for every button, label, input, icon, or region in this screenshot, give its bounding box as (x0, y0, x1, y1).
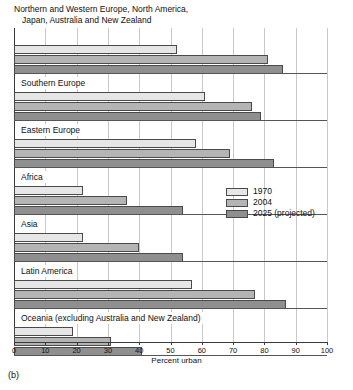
tick-label-40: 40 (135, 346, 143, 355)
bar-1970 (14, 45, 177, 54)
x-axis-ticks: 0102030405060708090100 (14, 342, 327, 356)
plot-area: Southern EuropeEastern EuropeAfricaAsiaL… (14, 28, 327, 342)
legend-label-1970: 1970 (253, 187, 272, 196)
bar-2004 (14, 243, 139, 252)
tick-label-70: 70 (229, 346, 237, 355)
bar-row (14, 45, 327, 54)
group-separator (14, 308, 327, 309)
group-label: Africa (14, 169, 327, 186)
group-label-text: Oceania (excluding Australia and New Zea… (19, 312, 204, 324)
bar-1970 (14, 327, 73, 336)
bar-row (14, 149, 327, 158)
bar-2004 (14, 149, 230, 158)
chart-title: Northern and Western Europe, North Ameri… (14, 4, 334, 26)
bar-1970 (14, 280, 192, 289)
figure-panel: Northern and Western Europe, North Ameri… (0, 0, 353, 390)
bar-2004 (14, 55, 268, 64)
group-separator (14, 120, 327, 121)
bar-1970 (14, 186, 83, 195)
bar-groups: Southern EuropeEastern EuropeAfricaAsiaL… (14, 28, 327, 342)
tick-mark-90 (296, 342, 297, 345)
group-label: Eastern Europe (14, 122, 327, 139)
legend-swatch-1970 (226, 188, 248, 196)
chart-legend: 1970 2004 2025 (projected) (226, 186, 315, 219)
bar-row (14, 139, 327, 148)
tick-label-80: 80 (260, 346, 268, 355)
bar-1970 (14, 92, 205, 101)
bar-row (14, 92, 327, 101)
group-label: Oceania (excluding Australia and New Zea… (14, 310, 327, 327)
tick-label-60: 60 (198, 346, 206, 355)
tick-label-10: 10 (41, 346, 49, 355)
x-axis-label: Percent urban (0, 356, 353, 365)
chart-title-line-2: Japan, Australia and New Zealand (14, 15, 334, 26)
group-label: Latin America (14, 263, 327, 280)
group-label: Southern Europe (14, 75, 327, 92)
group-label-text: Africa (19, 171, 46, 183)
tick-label-0: 0 (12, 346, 16, 355)
bar-row (14, 102, 327, 111)
bar-2004 (14, 196, 127, 205)
group-separator (14, 261, 327, 262)
group-label-text (19, 30, 24, 42)
tick-mark-60 (202, 342, 203, 345)
tick-label-20: 20 (72, 346, 80, 355)
tick-label-100: 100 (321, 346, 334, 355)
group-label-text: Eastern Europe (19, 124, 83, 136)
bar-row (14, 327, 327, 336)
gridline-100 (327, 28, 328, 342)
group-label-text: Asia (19, 218, 41, 230)
chart-title-line-1: Northern and Western Europe, North Ameri… (14, 4, 334, 15)
group-separator (14, 167, 327, 168)
bar-2004 (14, 290, 255, 299)
group-label (14, 28, 327, 45)
figure-caption: (b) (8, 370, 19, 380)
tick-label-50: 50 (166, 346, 174, 355)
bar-row (14, 290, 327, 299)
legend-item-2025: 2025 (projected) (226, 208, 315, 219)
group-label-text: Latin America (19, 265, 76, 277)
bar-group: Asia (14, 216, 327, 262)
bar-1970 (14, 139, 196, 148)
group-label-text: Southern Europe (19, 77, 88, 89)
bar-group: Eastern Europe (14, 122, 327, 168)
tick-label-90: 90 (292, 346, 300, 355)
bar-1970 (14, 233, 83, 242)
tick-mark-10 (45, 342, 46, 345)
bar-row (14, 55, 327, 64)
bar-2004 (14, 102, 252, 111)
group-separator (14, 73, 327, 74)
tick-mark-70 (233, 342, 234, 345)
tick-mark-40 (139, 342, 140, 345)
bar-row (14, 243, 327, 252)
bar-group (14, 28, 327, 74)
bar-group: Southern Europe (14, 75, 327, 121)
legend-swatch-2004 (226, 199, 248, 207)
legend-label-2004: 2004 (253, 198, 272, 207)
tick-mark-100 (327, 342, 328, 345)
tick-mark-0 (14, 342, 15, 345)
bar-group: Latin America (14, 263, 327, 309)
tick-mark-80 (264, 342, 265, 345)
legend-label-2025: 2025 (projected) (253, 209, 315, 218)
legend-item-2004: 2004 (226, 197, 315, 208)
tick-mark-20 (77, 342, 78, 345)
bar-row (14, 233, 327, 242)
tick-mark-50 (171, 342, 172, 345)
tick-mark-30 (108, 342, 109, 345)
bar-row (14, 280, 327, 289)
legend-item-1970: 1970 (226, 186, 315, 197)
tick-label-30: 30 (104, 346, 112, 355)
legend-swatch-2025 (226, 210, 248, 218)
